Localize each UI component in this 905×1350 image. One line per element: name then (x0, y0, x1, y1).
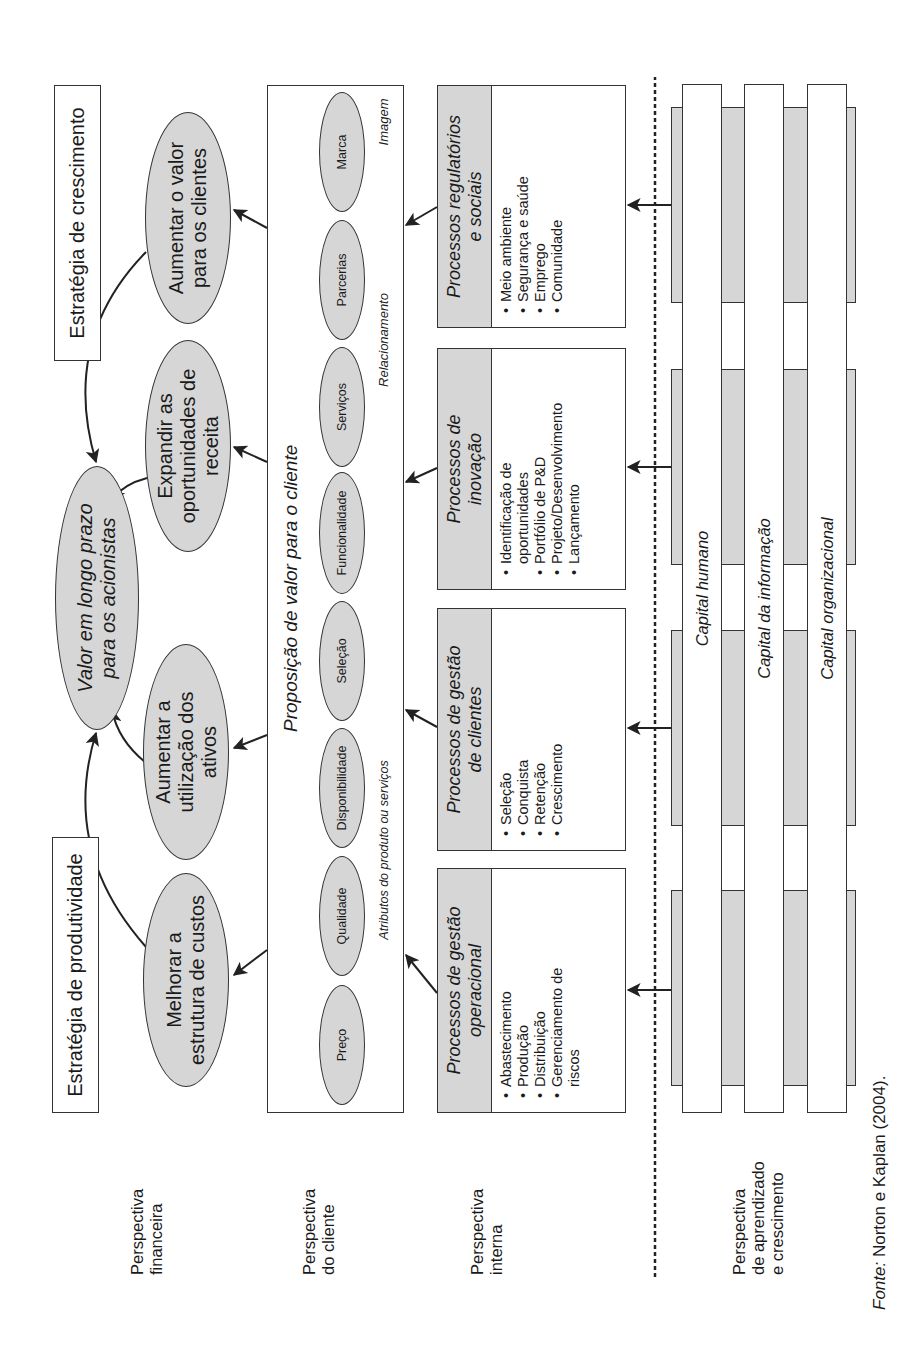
arrow-customer-to-ativos (234, 735, 267, 748)
objective-cost-structure-ellipse: Melhorar a estrutura de custos (143, 873, 229, 1087)
arrow-inovacao-to-customer (406, 468, 437, 482)
process-customer-mgmt-list: Seleção Conquista Retenção Crescimento (492, 744, 566, 850)
list-item: Conquista (515, 744, 532, 836)
list-item-continued: oportunidades (515, 403, 532, 575)
objective-revenue-ellipse: Expandir as oportunidades de receita (145, 340, 231, 552)
process-customer-mgmt-box: Processos de gestãode clientes Seleção C… (437, 608, 626, 851)
attr-selecao: Seleção (319, 601, 365, 721)
curve-assets-to-value (112, 710, 145, 762)
process-regulatory-list: Meio ambiente Segurança e saúde Emprego … (492, 176, 566, 327)
arrow-clientes-to-customer (406, 710, 437, 727)
list-item: Segurança e saúde (515, 176, 532, 313)
list-item: Identificação de (498, 403, 515, 575)
attr-disponibilidade: Disponibilidade (319, 728, 365, 848)
process-operational-list: Abastecimento Produção Distribuição Gere… (492, 968, 583, 1112)
list-item: Crescimento (549, 744, 566, 836)
process-innovation-box: Processos deinovação Identificação de op… (437, 348, 626, 590)
central-value-line-1: Valor em longo prazo (74, 503, 97, 692)
objective-assets-line-2: utilização dos (175, 691, 198, 812)
attr-marca: Marca (319, 92, 365, 212)
capital-information-bar: Capital da informação (744, 84, 784, 1113)
list-item: Abastecimento (498, 968, 515, 1098)
objective-customer-value-ellipse: Aumentar o valor para os clientes (145, 112, 231, 324)
arrow-operacional-to-customer (406, 955, 437, 993)
objective-revenue-line-2: oportunidades de (177, 369, 200, 524)
attr-qualidade: Qualidade (319, 856, 365, 976)
attr-funcionalidade: Funcionalidade (319, 472, 365, 594)
source-prefix: Fonte: (870, 1262, 889, 1310)
process-innovation-list: Identificação de oportunidades Portfólio… (492, 403, 583, 589)
attr-preco: Preço (319, 985, 365, 1105)
source-footnote: Fonte: Norton e Kaplan (2004). (870, 890, 890, 1310)
process-innovation-header: Processos deinovação (438, 349, 492, 589)
process-regulatory-header: Processos regulatóriose sociais (438, 86, 492, 327)
group-label-image: Imagem (376, 89, 391, 155)
arrow-regulatorios-to-customer (406, 207, 437, 225)
attr-parcerias: Parcerias (319, 220, 365, 340)
perspective-internal-label: Perspectiva interna (468, 1155, 506, 1275)
customer-value-title: Proposição de valor para o cliente (280, 452, 302, 732)
objective-revenue-line-1: Expandir as (154, 369, 177, 524)
capital-human-bar: Capital humano (682, 84, 722, 1113)
central-value-ellipse: Valor em longo prazo para os acionistas (55, 466, 139, 730)
objective-cost-line-2: estrutura de custos (186, 895, 209, 1065)
objective-value-line-1: Aumentar o valor (165, 142, 188, 294)
list-item-continued: riscos (566, 968, 583, 1098)
process-operational-box: Processos de gestãooperacional Abastecim… (437, 868, 626, 1113)
objective-value-line-2: para os clientes (188, 142, 211, 294)
perspective-learning-label: Perspectiva de aprendizado e crescimento (730, 1125, 787, 1275)
list-item: Projeto/Desenvolvimento (549, 403, 566, 575)
arrow-customer-to-custos (234, 950, 267, 975)
attr-servicos: Serviços (319, 347, 365, 467)
strategy-productivity-box: Estratégia de produtividade (52, 837, 99, 1113)
central-value-line-2: para os acionistas (97, 503, 120, 692)
list-item: Distribuição (532, 968, 549, 1098)
objective-cost-line-1: Melhorar a (163, 895, 186, 1065)
list-item: Produção (515, 968, 532, 1098)
strategy-growth-label: Estratégia de crescimento (66, 107, 89, 338)
objective-revenue-line-3: receita (200, 369, 223, 524)
list-item: Gerenciamento de (549, 968, 566, 1098)
list-item: Portfólio de P&D (532, 403, 549, 575)
list-item: Meio ambiente (498, 176, 515, 313)
strategy-productivity-label: Estratégia de produtividade (64, 853, 87, 1097)
process-operational-header: Processos de gestãooperacional (438, 869, 492, 1112)
objective-assets-line-3: ativos (198, 691, 221, 812)
strategy-map-diagram: Estratégia de produtividade Estratégia d… (0, 0, 905, 1350)
arrow-customer-to-receita (234, 447, 267, 462)
list-item: Retenção (532, 744, 549, 836)
list-item: Emprego (532, 176, 549, 313)
strategy-growth-box: Estratégia de crescimento (54, 85, 101, 361)
source-text: Norton e Kaplan (2004). (870, 1076, 889, 1262)
arrow-customer-to-valor (234, 210, 267, 228)
perspective-customer-label: Perspectiva do cliente (300, 1155, 338, 1275)
process-customer-mgmt-header: Processos de gestãode clientes (438, 609, 492, 850)
objective-asset-utilization-ellipse: Aumentar a utilização dos ativos (143, 644, 229, 860)
list-item: Lançamento (566, 403, 583, 575)
list-item: Seleção (498, 744, 515, 836)
list-item: Comunidade (549, 176, 566, 313)
group-label-relationship: Relacionamento (376, 280, 391, 400)
process-regulatory-box: Processos regulatóriose sociais Meio amb… (437, 85, 626, 328)
objective-assets-line-1: Aumentar a (152, 691, 175, 812)
group-label-product-attributes: Atributos do produto ou serviços (377, 710, 391, 990)
perspective-financial-label: Perspectiva financeira (128, 1155, 166, 1275)
capital-organizational-bar: Capital organizacional (807, 84, 847, 1113)
